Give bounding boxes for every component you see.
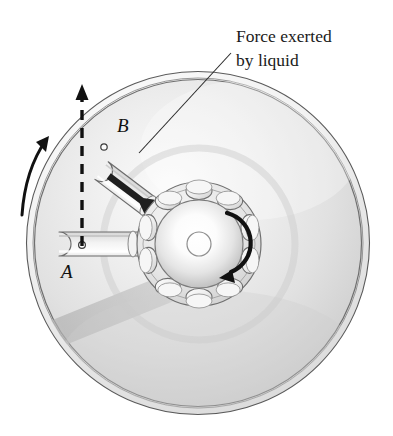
force-label-line2: by liquid (236, 50, 299, 70)
arm-a-label: A (59, 261, 73, 282)
arm-a (59, 231, 149, 257)
hub-port-mouth (186, 294, 212, 308)
hub-port-mouth (216, 283, 240, 297)
hub-port-mouth (158, 191, 182, 205)
hub-assembly (137, 180, 261, 308)
hub-port-mouth (216, 191, 240, 205)
figure-container: Force exerted by liquid A B (0, 0, 393, 436)
hub-port-mouth (158, 283, 182, 297)
arm-b-nozzle-hole (101, 144, 107, 150)
hub-port-mouth (139, 215, 152, 240)
hub-port-mouth (186, 180, 212, 194)
dashed-velocity-arrowhead (76, 84, 89, 100)
arm-b-label: B (117, 115, 129, 136)
force-label-line1: Force exerted (236, 26, 332, 46)
turbine-disc-illustration: Force exerted by liquid A B (0, 0, 393, 436)
hub-port-mouth (139, 248, 152, 273)
disc-rotation-arrowhead (36, 136, 49, 152)
